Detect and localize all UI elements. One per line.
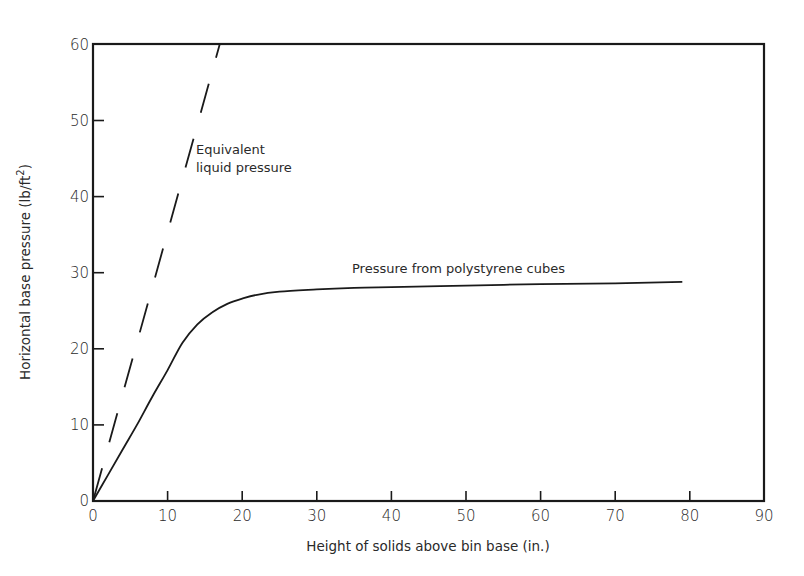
- x-axis-ticks: [168, 491, 690, 501]
- x-tick-label: 80: [680, 507, 699, 525]
- y-axis-title: Horizontal base pressure (lb/ft2): [15, 164, 33, 380]
- x-tick-labels: 0 10 20 30 40 50 60 70 80 90: [88, 507, 773, 525]
- x-tick-label: 40: [382, 507, 401, 525]
- y-axis-title-end: ): [17, 164, 33, 169]
- y-tick-label: 10: [70, 416, 89, 434]
- x-tick-label: 0: [88, 507, 98, 525]
- chart: 0 10 20 30 40 50 60 0 10 20 30 40 50 60 …: [0, 0, 804, 576]
- y-tick-label: 30: [70, 264, 89, 282]
- x-tick-label: 20: [233, 507, 252, 525]
- y-tick-label: 20: [70, 340, 89, 358]
- series-polystyrene-cubes: [93, 282, 682, 501]
- x-tick-label: 30: [307, 507, 326, 525]
- annotation-equivalent: Equivalent: [196, 142, 265, 157]
- x-tick-label: 60: [531, 507, 550, 525]
- x-tick-label: 70: [606, 507, 625, 525]
- x-tick-label: 90: [754, 507, 773, 525]
- y-axis-title-main: Horizontal base pressure (lb/ft: [17, 176, 33, 380]
- x-tick-label: 50: [456, 507, 475, 525]
- x-tick-label: 10: [158, 507, 177, 525]
- series-equivalent-liquid-pressure: [93, 44, 220, 501]
- y-tick-labels: 0 10 20 30 40 50 60: [70, 36, 89, 510]
- y-tick-label: 50: [70, 112, 89, 130]
- y-tick-label: 60: [70, 36, 89, 54]
- annotation-polystyrene-cubes: Pressure from polystyrene cubes: [352, 261, 565, 276]
- annotation-liquid-pressure: liquid pressure: [196, 160, 292, 175]
- x-axis-title: Height of solids above bin base (in.): [306, 538, 549, 554]
- y-tick-label: 40: [70, 188, 89, 206]
- y-axis-ticks: [93, 121, 104, 425]
